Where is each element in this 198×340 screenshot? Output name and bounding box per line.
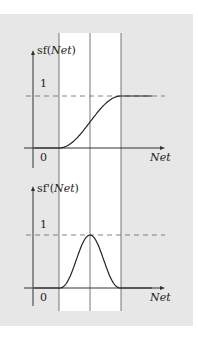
chart-svg xyxy=(0,0,198,340)
y-axis-arrow-icon xyxy=(31,50,35,55)
top-ylabel: sf(Net) xyxy=(37,44,76,57)
y-axis-arrow-icon xyxy=(31,186,35,191)
x-axis-arrow-icon xyxy=(160,146,165,150)
sigmoid-curve xyxy=(34,96,152,148)
sigmoid-derivative-curve xyxy=(34,235,152,288)
top-xlabel: Net xyxy=(150,151,171,164)
top-ytick-1: 1 xyxy=(40,77,47,90)
bottom-xlabel: Net xyxy=(150,291,171,304)
x-axis-arrow-icon xyxy=(160,286,165,290)
bottom-ytick-1: 1 xyxy=(40,218,47,231)
bottom-ylabel: sf'(Net) xyxy=(37,182,79,195)
top-origin-label: 0 xyxy=(40,151,47,164)
bottom-origin-label: 0 xyxy=(40,291,47,304)
